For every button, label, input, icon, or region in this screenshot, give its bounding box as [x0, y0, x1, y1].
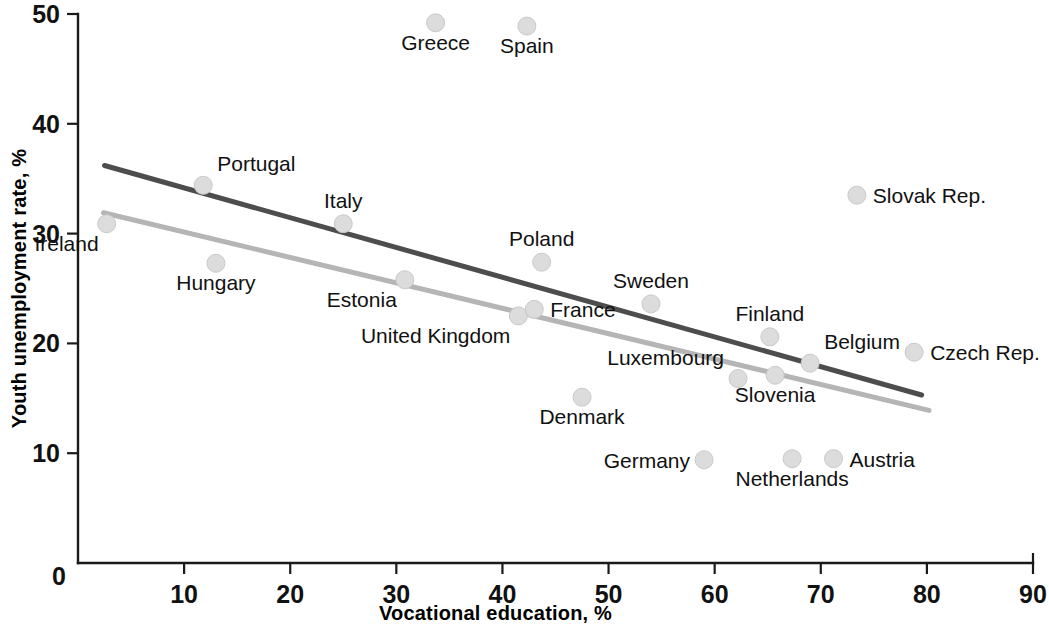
x-axis-tick-label: 60	[701, 580, 729, 608]
data-point-label: Germany	[604, 449, 691, 472]
data-point-marker	[825, 450, 843, 468]
data-point-label: Finland	[735, 302, 804, 325]
data-point-label: Ireland	[34, 232, 98, 255]
data-point-marker	[207, 254, 225, 272]
data-point-marker	[761, 328, 779, 346]
data-point-marker	[525, 300, 543, 318]
data-point-label: Czech Rep.	[930, 341, 1040, 364]
data-point-label: Luxembourg	[607, 346, 724, 369]
data-point-label: Netherlands	[736, 467, 849, 490]
y-axis-tick-label: 40	[32, 110, 60, 138]
data-point-marker	[695, 451, 713, 469]
x-axis-tick-label: 10	[170, 580, 198, 608]
data-point-label: Slovak Rep.	[873, 184, 986, 207]
y-axis-tick-label: 20	[32, 329, 60, 357]
y-axis-tick-label: 10	[32, 439, 60, 467]
data-point-marker	[848, 186, 866, 204]
data-point-label: Slovenia	[735, 383, 816, 406]
chart-canvas: 01020304050102030405060708090 IrelandPor…	[0, 0, 1049, 629]
data-point-marker	[783, 450, 801, 468]
data-point-marker	[573, 388, 591, 406]
data-point-marker	[334, 215, 352, 233]
data-point-label: Austria	[850, 448, 916, 471]
x-axis-tick-label: 20	[276, 580, 304, 608]
data-point-marker	[396, 271, 414, 289]
x-axis-title: Vocational education, %	[379, 602, 612, 624]
y-axis-title: Youth unemployment rate, %	[8, 149, 30, 428]
data-point-label: Spain	[500, 34, 554, 57]
data-point-label: Hungary	[176, 271, 256, 294]
x-axis-tick-label: 70	[807, 580, 835, 608]
x-axis-tick-label: 90	[1019, 580, 1047, 608]
data-point-marker	[98, 215, 116, 233]
data-point-marker	[509, 307, 527, 325]
data-point-marker	[518, 17, 536, 35]
x-axis-tick-label: 80	[913, 580, 941, 608]
data-point-marker	[801, 354, 819, 372]
data-point-marker	[533, 253, 551, 271]
y-axis-tick-label: 0	[52, 562, 66, 590]
data-point-label: Denmark	[539, 405, 625, 428]
data-point-label: France	[550, 298, 615, 321]
data-point-label: United Kingdom	[361, 324, 510, 347]
scatter-chart: 01020304050102030405060708090 IrelandPor…	[0, 0, 1049, 629]
data-point-marker	[427, 14, 445, 32]
data-point-marker	[642, 295, 660, 313]
data-point-label: Estonia	[327, 288, 397, 311]
data-point-marker	[194, 176, 212, 194]
data-point-label: Belgium	[824, 330, 900, 353]
data-point-label: Portugal	[217, 152, 295, 175]
data-point-label: Italy	[324, 189, 363, 212]
data-point-marker	[766, 366, 784, 384]
data-point-label: Greece	[401, 31, 470, 54]
data-point-marker	[905, 343, 923, 361]
data-point-label: Sweden	[613, 269, 689, 292]
y-axis-tick-label: 50	[32, 0, 60, 28]
data-point-label: Poland	[509, 227, 574, 250]
